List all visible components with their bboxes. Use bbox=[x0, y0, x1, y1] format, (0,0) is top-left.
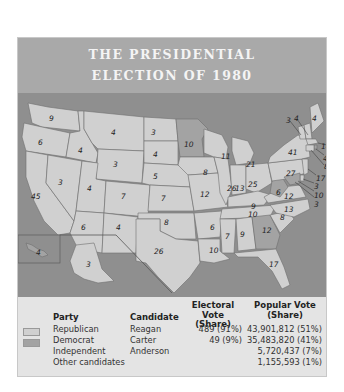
header-popular-line2: (Share) bbox=[250, 311, 320, 321]
svg-text:21: 21 bbox=[246, 160, 256, 169]
state-colorado bbox=[104, 181, 150, 217]
svg-text:6: 6 bbox=[276, 188, 281, 197]
results-table: Party Candidate Electoral Vote (Share) P… bbox=[18, 297, 326, 377]
row-electoral: 49 (9%) bbox=[178, 335, 242, 346]
row-candidate: Carter bbox=[130, 335, 156, 346]
svg-text:7: 7 bbox=[225, 232, 230, 241]
state-wyoming bbox=[96, 149, 144, 183]
svg-text:4: 4 bbox=[116, 223, 121, 232]
svg-text:4: 4 bbox=[36, 248, 41, 257]
state-arkansas bbox=[194, 211, 222, 239]
svg-text:8: 8 bbox=[280, 213, 285, 222]
state-north-dakota bbox=[144, 117, 178, 141]
svg-text:13: 13 bbox=[235, 184, 245, 193]
header-candidate: Candidate bbox=[130, 313, 179, 323]
state-new-mexico bbox=[102, 213, 138, 253]
row-party: Democrat bbox=[53, 335, 94, 346]
svg-text:3: 3 bbox=[58, 178, 63, 187]
svg-text:8: 8 bbox=[164, 218, 169, 227]
svg-text:12: 12 bbox=[284, 192, 294, 201]
svg-text:3: 3 bbox=[286, 116, 291, 125]
row-popular: 35,483,820 (41%) bbox=[244, 335, 322, 346]
state-massachusetts bbox=[306, 139, 318, 145]
svg-text:12: 12 bbox=[200, 190, 210, 199]
svg-text:3: 3 bbox=[113, 160, 118, 169]
state-rhode-island bbox=[314, 145, 317, 149]
svg-text:45: 45 bbox=[31, 192, 41, 201]
svg-text:3: 3 bbox=[151, 128, 156, 137]
row-popular: 1,155,593 (1%) bbox=[244, 357, 322, 368]
row-candidate: Anderson bbox=[130, 346, 169, 357]
row-popular: 5,720,437 (7%) bbox=[244, 346, 322, 357]
svg-text:6: 6 bbox=[38, 138, 43, 147]
title-banner: THE PRESIDENTIAL ELECTION OF 1980 bbox=[18, 38, 326, 93]
svg-text:10: 10 bbox=[209, 246, 219, 255]
state-minnesota bbox=[176, 119, 208, 157]
svg-text:4: 4 bbox=[153, 150, 158, 159]
svg-text:10: 10 bbox=[184, 140, 194, 149]
svg-text:4: 4 bbox=[294, 114, 299, 123]
democrat-swatch bbox=[23, 339, 40, 347]
row-candidate: Reagan bbox=[130, 324, 161, 335]
svg-text:17: 17 bbox=[269, 260, 279, 269]
svg-text:4: 4 bbox=[111, 128, 116, 137]
svg-text:7: 7 bbox=[121, 192, 126, 201]
svg-text:10: 10 bbox=[248, 210, 258, 219]
us-electoral-map: 9 6 45 4 3 4 3 4 7 6 4 3 4 5 7 8 26 10 8… bbox=[18, 93, 326, 297]
state-florida bbox=[234, 249, 290, 289]
row-party: Other candidates bbox=[53, 357, 125, 368]
svg-text:25: 25 bbox=[248, 180, 258, 189]
svg-text:9: 9 bbox=[240, 230, 245, 239]
svg-text:12: 12 bbox=[262, 226, 272, 235]
svg-text:6: 6 bbox=[81, 223, 86, 232]
row-popular: 43,901,812 (51%) bbox=[244, 324, 322, 335]
state-connecticut bbox=[306, 145, 314, 151]
svg-text:4: 4 bbox=[312, 114, 317, 123]
svg-text:3: 3 bbox=[314, 182, 319, 191]
row-party: Independent bbox=[53, 346, 106, 357]
svg-text:41: 41 bbox=[288, 148, 298, 157]
svg-text:8: 8 bbox=[324, 162, 327, 171]
map-graphic: 9 6 45 4 3 4 3 4 7 6 4 3 4 5 7 8 26 10 8… bbox=[18, 93, 327, 297]
state-south-dakota bbox=[144, 141, 178, 165]
row-party: Republican bbox=[53, 324, 99, 335]
republican-swatch bbox=[23, 328, 40, 336]
svg-text:6: 6 bbox=[210, 223, 215, 232]
state-delaware bbox=[300, 175, 304, 181]
svg-text:27: 27 bbox=[286, 169, 296, 178]
svg-text:13: 13 bbox=[284, 205, 294, 214]
svg-text:4: 4 bbox=[78, 146, 83, 155]
svg-text:3: 3 bbox=[86, 260, 91, 269]
svg-text:10: 10 bbox=[314, 191, 324, 200]
svg-text:9: 9 bbox=[49, 114, 54, 123]
svg-text:4: 4 bbox=[87, 184, 92, 193]
svg-text:26: 26 bbox=[154, 247, 164, 256]
header-party: Party bbox=[53, 313, 79, 323]
header-electoral-line1: Electoral Vote bbox=[180, 301, 246, 320]
svg-text:7: 7 bbox=[161, 194, 166, 203]
svg-text:5: 5 bbox=[153, 172, 158, 181]
svg-text:14: 14 bbox=[321, 142, 327, 151]
row-electoral: 489 (91%) bbox=[178, 324, 242, 335]
svg-text:3: 3 bbox=[314, 200, 319, 209]
election-map-figure: THE PRESIDENTIAL ELECTION OF 1980 bbox=[17, 37, 327, 377]
title-line-2: ELECTION OF 1980 bbox=[18, 68, 326, 83]
svg-text:11: 11 bbox=[221, 152, 231, 161]
state-kansas bbox=[148, 185, 194, 211]
header-popular-vote: Popular Vote (Share) bbox=[250, 301, 320, 320]
title-line-1: THE PRESIDENTIAL bbox=[18, 47, 326, 62]
svg-text:8: 8 bbox=[203, 168, 208, 177]
